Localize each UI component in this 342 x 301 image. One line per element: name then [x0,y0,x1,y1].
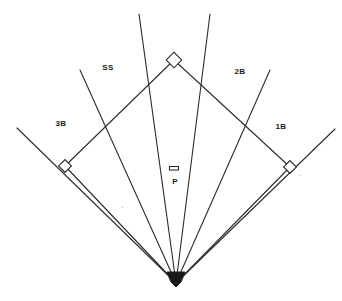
first-base-fielder-line [176,70,270,283]
scan-speck [300,175,301,176]
label-first-base: 1B [275,122,286,131]
baseball-infield-diagram: SS 3B 2B 1B P [0,0,342,301]
baseline-home-to-third [65,166,176,283]
label-third-base: 3B [55,119,66,128]
baseline-first-to-home [176,167,290,283]
label-shortstop: SS [102,63,113,72]
base-bags-group [59,52,297,173]
left-foul-line [17,128,176,283]
infield-baselines-group [65,60,290,283]
baseline-second-to-first [174,60,290,167]
label-second-base: 2B [234,67,245,76]
right-foul-line [176,129,335,283]
scan-speck [122,207,123,208]
pitchers-rubber-group [170,167,179,171]
field-svg [0,0,342,301]
pitchers-rubber-icon [170,167,179,171]
home-plate-icon [167,272,185,287]
second-base-fielder-line [176,14,210,283]
label-pitcher: P [172,177,178,186]
home-plate-group [167,272,185,287]
